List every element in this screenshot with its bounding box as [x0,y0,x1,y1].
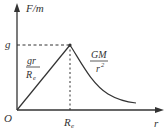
svg-text:e: e [33,74,36,81]
origin-label: O [4,112,12,124]
y-axis-label: F/m [25,2,44,14]
y-axis-arrow-icon [14,3,20,12]
inside-formula: gr R e [25,55,40,81]
outside-formula: GM r 2 [90,49,108,74]
x-axis-arrow-icon [155,107,164,113]
gravity-field-diagram: F/m r O g R e gr R e GM r 2 [0,0,166,138]
inside-linear-line [17,45,70,110]
svg-text:2: 2 [101,61,105,68]
g-label: g [5,38,11,50]
svg-text:r: r [96,63,100,74]
svg-text:gr: gr [27,55,36,66]
svg-text:e: e [71,122,74,130]
svg-text:R: R [63,116,71,128]
svg-text:GM: GM [91,49,107,60]
x-axis-label: r [154,117,159,129]
svg-text:R: R [25,69,32,80]
re-label: R e [63,116,74,130]
